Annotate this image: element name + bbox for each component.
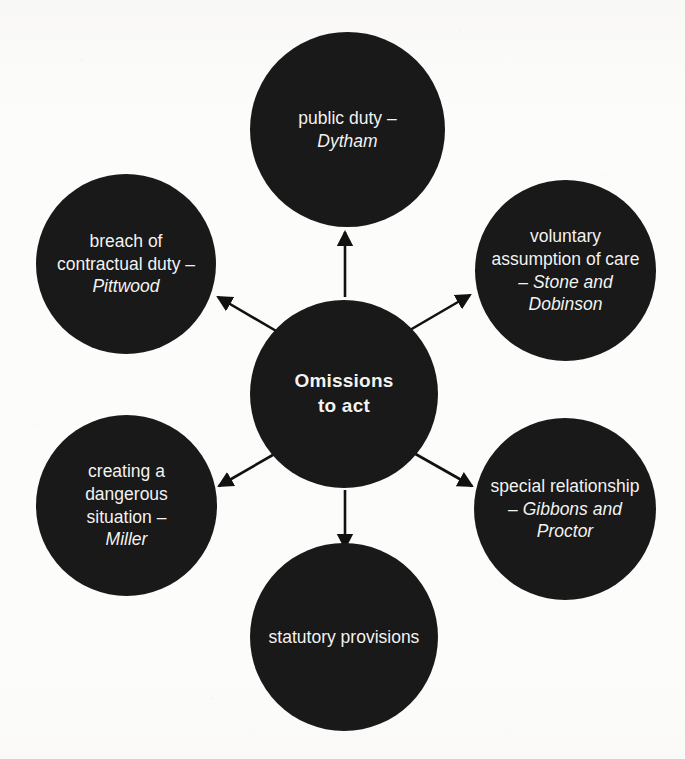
diagram-canvas: public duty – Dytham voluntary assumptio… xyxy=(0,0,685,759)
node-creating-dangerous-situation-label: creating a dangerous situation – Miller xyxy=(36,460,217,551)
node-public-duty[interactable]: public duty – Dytham xyxy=(250,32,445,227)
arrow-to-creating-dangerous-situation xyxy=(219,452,278,486)
node-center-omissions-to-act[interactable]: Omissions to act xyxy=(250,300,438,488)
node-center-label: Omissions to act xyxy=(279,369,410,418)
node-special-relationship-label: special relationship – Gibbons and Proct… xyxy=(474,475,656,543)
node-voluntary-assumption-of-care[interactable]: voluntary assumption of care – Stone and… xyxy=(475,180,656,361)
arrow-to-special-relationship xyxy=(412,452,472,486)
node-breach-of-contractual-duty-label: breach of contractual duty – Pittwood xyxy=(36,230,216,298)
node-breach-of-contractual-duty[interactable]: breach of contractual duty – Pittwood xyxy=(36,174,216,354)
node-voluntary-assumption-of-care-label: voluntary assumption of care – Stone and… xyxy=(475,225,656,316)
arrow-to-voluntary-assumption-of-care xyxy=(410,295,470,330)
node-statutory-provisions-label: statutory provisions xyxy=(253,626,436,649)
node-creating-dangerous-situation[interactable]: creating a dangerous situation – Miller xyxy=(36,415,217,596)
arrow-to-breach-of-contractual-duty xyxy=(218,297,278,332)
node-statutory-provisions[interactable]: statutory provisions xyxy=(250,543,438,731)
node-public-duty-label: public duty – Dytham xyxy=(282,107,412,153)
node-special-relationship[interactable]: special relationship – Gibbons and Proct… xyxy=(474,418,656,600)
